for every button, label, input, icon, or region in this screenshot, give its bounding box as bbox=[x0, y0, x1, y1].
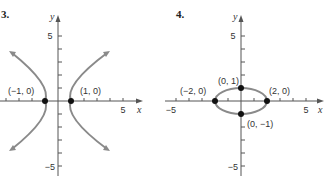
y-tick-label-neg5: −5 bbox=[228, 162, 238, 172]
y-axis-arrow-icon bbox=[239, 15, 244, 22]
x-axis-arrow-icon bbox=[136, 99, 143, 104]
hyperbola-chart: 3. 5 −5 5 x y (−1, 0) (1, 0) bbox=[0, 0, 165, 177]
point-label: (1, 0) bbox=[80, 86, 101, 96]
hyperbola-chart-panel: 3. 5 −5 5 x y (−1, 0) (1, 0) bbox=[0, 0, 165, 177]
point-label: (0, 1) bbox=[218, 76, 239, 86]
point-label: (−1, 0) bbox=[8, 86, 34, 96]
x-tick-label-5: 5 bbox=[303, 105, 308, 115]
y-axis-label: y bbox=[232, 11, 238, 22]
y-axis-label: y bbox=[49, 11, 55, 22]
vertex-point bbox=[212, 98, 218, 104]
point-label: (−2, 0) bbox=[180, 86, 206, 96]
point-label: (0, −1) bbox=[247, 119, 273, 129]
point-label: (2, 0) bbox=[269, 86, 290, 96]
chart-number: 4. bbox=[176, 8, 185, 20]
co-vertex-point bbox=[238, 111, 244, 117]
x-axis-label: x bbox=[136, 104, 142, 115]
chart-number: 3. bbox=[1, 8, 10, 20]
ellipse-chart: 4. 5 −5 −5 5 x y (−2, 0) (2, 0) (0, 1) (… bbox=[165, 0, 330, 177]
ellipse-chart-panel: 4. 5 −5 −5 5 x y (−2, 0) (2, 0) (0, 1) (… bbox=[165, 0, 330, 177]
x-axis-label: x bbox=[317, 104, 323, 115]
y-axis-arrow-icon bbox=[56, 15, 61, 22]
x-tick-label-neg5: −5 bbox=[166, 105, 176, 115]
y-tick-label-5: 5 bbox=[47, 31, 52, 41]
y-tick-label-neg5: −5 bbox=[45, 162, 55, 172]
y-tick-label-5: 5 bbox=[230, 31, 235, 41]
vertex-point bbox=[42, 98, 48, 104]
x-axis-arrow-icon bbox=[317, 99, 324, 104]
vertex-point bbox=[68, 98, 74, 104]
x-tick-label-5: 5 bbox=[120, 105, 125, 115]
vertex-point bbox=[264, 98, 270, 104]
